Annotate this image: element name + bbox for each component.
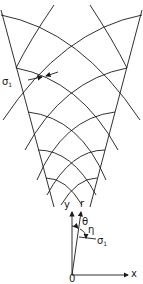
x-axis-label: x xyxy=(131,269,137,279)
y-axis-label: y xyxy=(64,200,70,210)
sigma-arrow-left xyxy=(28,77,42,80)
sigma-arrow-right xyxy=(46,72,58,76)
origin-label: 0 xyxy=(69,274,75,284)
sigma-axis-label: σ1 xyxy=(97,236,107,247)
wedge-left-edge xyxy=(1,10,54,207)
sigma-label-left: σ1 xyxy=(2,77,12,88)
eta-label: η xyxy=(88,225,94,235)
r-axis-label: r xyxy=(80,199,84,209)
r-axis xyxy=(72,212,81,275)
sigma-axis xyxy=(79,237,96,239)
wedge-right-edge xyxy=(90,10,142,207)
